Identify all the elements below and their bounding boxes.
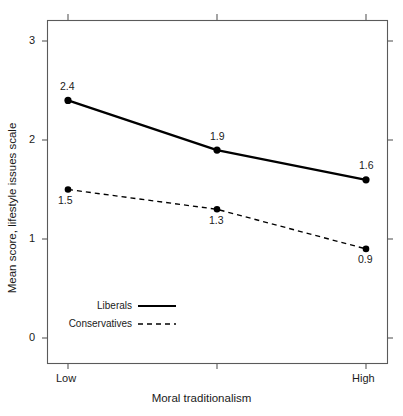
y-axis-title: Mean score, lifestyle issues scale [2,0,22,416]
y-tick-label-1: 1 [29,232,35,244]
legend-label-liberals: Liberals [55,300,132,311]
point-label-liberals-low: 2.4 [60,80,75,92]
y-tick-label-3: 3 [29,34,35,46]
y-axis-ticks [42,41,48,338]
legend-label-conservatives: Conservatives [55,318,132,329]
point-label-liberals-high: 1.6 [359,159,374,171]
point-label-liberals-mid: 1.9 [210,130,225,142]
x-axis-title: Moral traditionalism [0,392,403,404]
chart-figure: 0 1 2 3 Low High Mean score, lifestyle i… [0,0,403,416]
plot-frame [48,21,388,364]
point-label-conservatives-low: 1.5 [58,194,73,206]
y-tick-label-0: 0 [29,331,35,343]
point-label-conservatives-high: 0.9 [358,253,373,265]
x-tick-label-high: High [352,372,375,384]
y-axis-ticks-right [388,41,394,338]
y-tick-label-2: 2 [29,133,35,145]
x-axis-ticks-top [68,14,366,21]
x-tick-label-low: Low [56,372,76,384]
plot-area-svg [0,0,403,416]
point-label-conservatives-mid: 1.3 [209,214,224,226]
